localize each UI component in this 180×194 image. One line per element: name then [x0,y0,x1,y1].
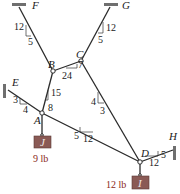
node-D [138,160,142,164]
label-D: D [140,147,149,159]
slope-AD-rise: 5 [74,130,79,141]
weight-block-J: J [34,136,51,148]
slope-CD-rise: 4 [91,96,96,107]
slope-BC-rise: 7 [78,59,83,70]
support-H [173,146,176,160]
slope-FB-run: 5 [28,36,33,47]
slope-BC-run: 24 [62,70,72,81]
slope-CD-run: 3 [100,105,105,116]
slope-FB-rise: 12 [14,21,24,32]
slope-AD-run: 12 [83,133,93,144]
slope-DH-run: 12 [149,157,159,168]
support-G [104,3,118,6]
label-E: E [11,76,19,88]
slope-DH-rise: 5 [161,149,166,160]
slope-triangle-CD [98,92,104,103]
slope-AB-run: 8 [48,102,53,113]
slope-AB-rise: 15 [51,87,61,98]
slope-triangle-AD [80,127,93,132]
support-F [12,3,26,6]
cord-GC [81,7,110,61]
label-F: F [31,0,39,11]
slope-GC-rise: 12 [106,22,116,33]
slope-EA-run: 4 [23,104,28,115]
weight-value-A: 9 lb [33,153,48,164]
support-E [3,84,6,98]
slope-triangle-FB [26,25,31,36]
label-B: B [48,58,55,70]
slope-GC-run: 5 [98,34,103,45]
slope-EA-rise: 3 [13,94,18,105]
weight-value-D: 12 lb [106,179,126,190]
label-G: G [122,0,130,11]
label-A: A [33,114,41,126]
cable-diagram: J I 9 lb 12 lb F G E H B C A D 12 5 12 5… [0,0,180,194]
weight-block-I: I [132,176,149,189]
label-H: H [168,130,178,142]
